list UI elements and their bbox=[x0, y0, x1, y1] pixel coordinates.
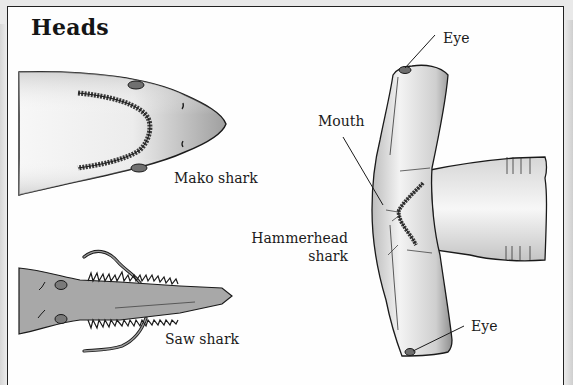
eye-top-leader-line bbox=[405, 35, 435, 68]
label-eye-top: Eye bbox=[443, 30, 469, 47]
label-hammerhead-line2: shark bbox=[240, 248, 348, 265]
label-saw-shark: Saw shark bbox=[165, 331, 239, 348]
label-mako-shark: Mako shark bbox=[174, 170, 258, 187]
page-title: Heads bbox=[31, 14, 109, 40]
hammerhead-shark-illustration bbox=[343, 35, 547, 356]
label-eye-bottom: Eye bbox=[471, 318, 497, 335]
label-hammerhead-line1: Hammerhead bbox=[240, 230, 348, 247]
label-mouth: Mouth bbox=[318, 113, 364, 130]
